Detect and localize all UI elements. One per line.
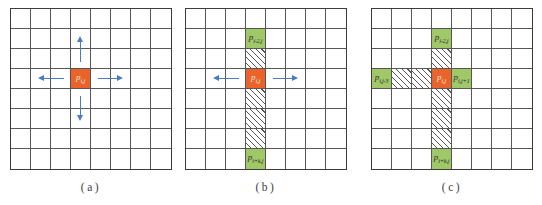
grid-cell — [186, 49, 206, 69]
grid-cell — [306, 129, 326, 149]
grid-cell — [266, 129, 286, 149]
grid-cell — [492, 109, 512, 129]
grid-cell — [31, 149, 51, 169]
grid-cell — [286, 9, 306, 29]
grid-cell — [91, 9, 111, 29]
grid-cell — [151, 49, 171, 69]
grid-cell — [91, 109, 111, 129]
grid-cell — [392, 89, 412, 109]
grid-cell — [206, 49, 226, 69]
grid-cell — [412, 9, 432, 29]
grid-cell — [512, 29, 532, 49]
neighbor-cell: pi-2,j — [432, 29, 452, 49]
grid-cell — [11, 149, 31, 169]
grid-cell — [226, 9, 246, 29]
cell-label: pi+k,j — [248, 153, 264, 164]
grid-cell — [412, 89, 432, 109]
grid-cell — [266, 149, 286, 169]
grid-cell — [326, 149, 346, 169]
grid-cell — [186, 89, 206, 109]
grid-cell — [326, 129, 346, 149]
grid-cell — [131, 29, 151, 49]
grid-cell — [392, 9, 412, 29]
grid-cell — [31, 29, 51, 49]
cell-label: pi+k,j — [434, 153, 450, 164]
arrow-left-head-icon — [38, 75, 44, 81]
grid-cell — [372, 129, 392, 149]
grid-cell — [111, 49, 131, 69]
grid-cell — [51, 29, 71, 49]
hatch-cell — [432, 129, 452, 149]
panel-c: pi-2,jpi,j-3pi,jpi,j+1pi+k,j (c) — [371, 8, 533, 203]
arrow-right — [273, 78, 293, 80]
grid-cell — [326, 69, 346, 89]
grid-cell — [206, 89, 226, 109]
grid-cell — [392, 49, 412, 69]
grid-cell — [432, 9, 452, 29]
grid-cell — [186, 69, 206, 89]
grid-cell — [472, 29, 492, 49]
grid-cell — [226, 129, 246, 149]
cell-label: pi-2,j — [435, 33, 449, 44]
grid-cell — [372, 49, 392, 69]
grid-cell — [206, 129, 226, 149]
grid-cell — [11, 29, 31, 49]
grid-cell — [226, 89, 246, 109]
hatch-cell — [432, 49, 452, 69]
hatch-cell — [412, 69, 432, 89]
grid-cell — [326, 109, 346, 129]
grid-cell — [472, 129, 492, 149]
grid-cell — [151, 109, 171, 129]
hatch-cell — [246, 89, 266, 109]
grid-cell — [111, 9, 131, 29]
grid-cell — [71, 129, 91, 149]
grid-cell — [512, 9, 532, 29]
cell-label: pi,j — [251, 73, 260, 84]
grid-cell — [111, 129, 131, 149]
grid-cell — [186, 29, 206, 49]
grid-cell — [452, 29, 472, 49]
grid-cell — [372, 89, 392, 109]
cell-label: pi,j — [437, 73, 446, 84]
grid-cell — [286, 109, 306, 129]
grid-cell — [492, 129, 512, 149]
grid-cell — [51, 49, 71, 69]
grid-cell — [31, 129, 51, 149]
grid-cell — [326, 29, 346, 49]
grid-cell — [472, 109, 492, 129]
grid-cell — [111, 29, 131, 49]
grid-cell — [226, 109, 246, 129]
grid-cell — [286, 149, 306, 169]
caption-c: (c) — [371, 181, 533, 193]
grid-cell — [306, 89, 326, 109]
grid-cell — [512, 129, 532, 149]
grid-cell — [372, 9, 392, 29]
grid-cell — [472, 49, 492, 69]
grid-cell — [206, 149, 226, 169]
grid-cell — [186, 149, 206, 169]
grid-cell — [472, 69, 492, 89]
grid-cell — [392, 129, 412, 149]
grid-cell — [151, 129, 171, 149]
grid-cell — [151, 149, 171, 169]
grid-cell — [266, 9, 286, 29]
grid-cell — [246, 9, 266, 29]
grid-cell — [151, 9, 171, 29]
grid-cell — [492, 9, 512, 29]
arrow-up-head-icon — [77, 36, 83, 42]
arrow-right-head-icon — [117, 75, 123, 81]
grid-cell — [392, 29, 412, 49]
arrow-left-head-icon — [213, 75, 219, 81]
arrow-left — [44, 78, 64, 80]
grid-cell — [286, 29, 306, 49]
grid-cell — [306, 109, 326, 129]
hatch-cell — [392, 69, 412, 89]
grid-cell — [51, 9, 71, 29]
grid-a: pi,j — [10, 8, 172, 170]
neighbor-cell: pi,j+1 — [452, 69, 472, 89]
grid-cell — [151, 29, 171, 49]
grid-cell — [286, 49, 306, 69]
grid-cell — [11, 129, 31, 149]
cell-label: pi,j — [76, 73, 85, 84]
grid-cell — [392, 149, 412, 169]
